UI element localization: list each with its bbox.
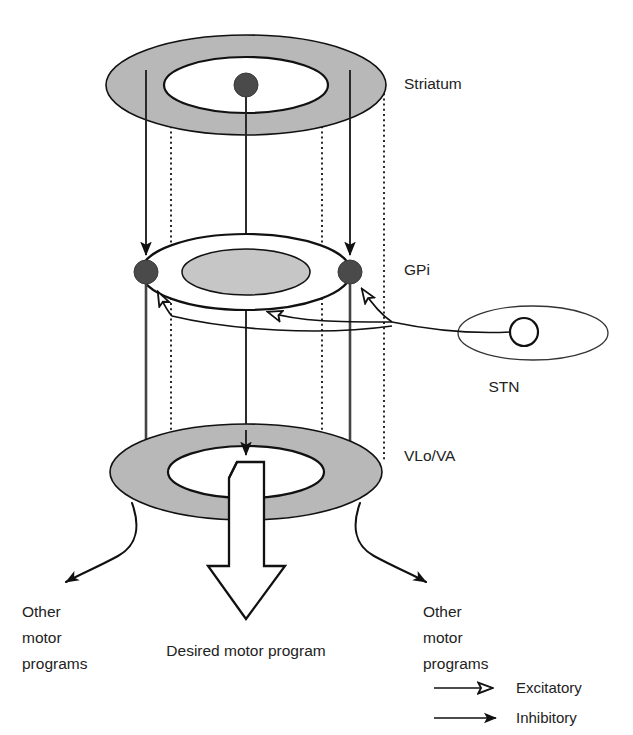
other-motor-left-line2: motor — [22, 629, 62, 646]
gpi-right-soma-icon — [338, 260, 362, 284]
other-motor-left-line1: Other — [22, 603, 61, 620]
gpi-left-soma-icon — [134, 260, 158, 284]
other-motor-left-line3: programs — [22, 655, 88, 672]
structure-gpi[interactable] — [141, 234, 351, 310]
other-motor-right-line2: motor — [423, 629, 463, 646]
label-desired-motor-program: Desired motor program — [166, 642, 325, 659]
striatum-neuron-center[interactable] — [234, 73, 258, 97]
other-motor-right-line3: programs — [423, 655, 489, 672]
label-striatum: Striatum — [404, 75, 462, 92]
other-motor-right-line1: Other — [423, 603, 462, 620]
stn-soma-icon — [510, 318, 538, 346]
label-stn: STN — [489, 378, 520, 395]
label-gpi: GPi — [404, 261, 430, 278]
gpi-neuron-left[interactable] — [134, 260, 158, 284]
legend-label-excitatory: Excitatory — [516, 679, 582, 696]
label-vlova: VLo/VA — [404, 447, 456, 464]
gpi-inner-ellipse — [182, 249, 310, 295]
gpi-neuron-right[interactable] — [338, 260, 362, 284]
figure-root: Striatum GPi VLo/VA STN Other motor prog… — [0, 0, 633, 735]
legend-label-inhibitory: Inhibitory — [516, 709, 577, 726]
striatum-soma-icon — [234, 73, 258, 97]
basal-ganglia-diagram: Striatum GPi VLo/VA STN Other motor prog… — [0, 0, 633, 735]
